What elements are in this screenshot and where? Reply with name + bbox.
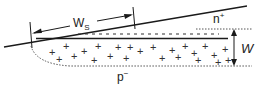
w-arrowhead-up-icon [231, 29, 237, 36]
plus-charge-icon: + [175, 51, 181, 63]
plus-charge-icon: + [137, 45, 143, 57]
plus-charge-icon: + [127, 41, 133, 53]
plus-charge-icon: + [95, 40, 101, 52]
plus-charge-icon: + [71, 50, 77, 62]
junction-diagram: WS n+ W p− ++++++++++++++++++++++++ [0, 0, 257, 90]
plus-charge-icon: + [123, 52, 129, 64]
plus-charge-icon: + [225, 54, 231, 66]
ws-arrowhead-left-icon [32, 29, 42, 34]
n-plus-label: n+ [213, 11, 225, 26]
plus-charge-icon: + [81, 45, 87, 57]
sloped-surface-line [4, 6, 247, 47]
positive-charges: ++++++++++++++++++++++++ [49, 40, 231, 68]
plus-charge-icon: + [182, 40, 188, 52]
plus-charge-icon: + [159, 52, 165, 64]
plus-charge-icon: + [107, 50, 113, 62]
ws-left-tick [30, 22, 32, 48]
plus-charge-icon: + [195, 54, 201, 66]
plus-charge-icon: + [63, 40, 69, 52]
p-minus-label: p− [117, 69, 129, 84]
plus-charge-icon: + [115, 41, 121, 53]
ws-arrowhead-right-icon [124, 14, 133, 19]
ws-label: WS [73, 16, 90, 32]
plus-charge-icon: + [91, 54, 97, 66]
plus-charge-icon: + [49, 46, 55, 58]
plus-charge-icon: + [56, 53, 62, 65]
plus-charge-icon: + [215, 56, 221, 68]
w-arrowhead-down-icon [231, 59, 237, 66]
plus-charge-icon: + [150, 41, 156, 53]
w-label: W [241, 41, 255, 56]
plus-charge-icon: + [202, 40, 208, 52]
